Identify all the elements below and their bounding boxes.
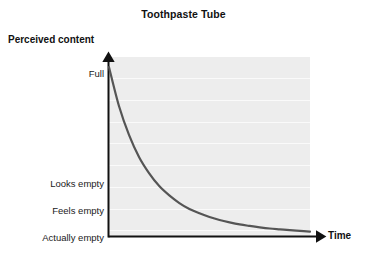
chart-figure: Toothpaste Tube Perceived content Full L… — [0, 0, 367, 262]
x-axis-label: Time — [328, 230, 351, 241]
chart-vector-layer — [0, 0, 367, 262]
decay-curve — [109, 67, 310, 231]
